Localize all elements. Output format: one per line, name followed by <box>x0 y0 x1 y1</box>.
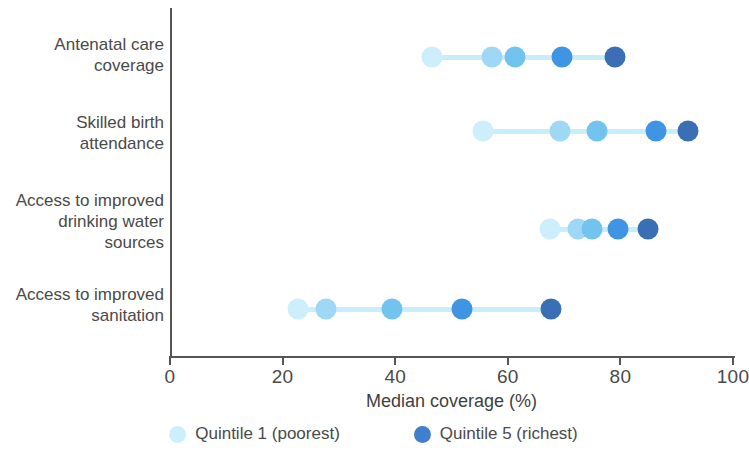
x-axis-tick <box>732 356 734 365</box>
x-axis-line <box>170 356 735 358</box>
data-point-dot <box>582 219 603 240</box>
category-label-antenatal-care-coverage: Antenatal care coverage <box>4 34 164 76</box>
data-point-dot <box>541 299 562 320</box>
category-label-access-to-improved-sanitation: Access to improved sanitation <box>4 284 164 326</box>
category-label-line: Access to improved <box>4 190 164 211</box>
x-axis-tick <box>169 356 171 365</box>
legend-label: Quintile 5 (richest) <box>440 424 578 444</box>
category-label-line: Antenatal care <box>4 34 164 55</box>
data-point-dot <box>551 47 572 68</box>
data-point-dot <box>604 47 625 68</box>
legend-item-quintile-1: Quintile 1 (poorest) <box>169 424 340 444</box>
x-axis-tick <box>282 356 284 365</box>
category-label-skilled-birth-attendance: Skilled birth attendance <box>4 112 164 154</box>
legend-swatch-icon <box>414 426 431 443</box>
data-point-dot <box>482 47 503 68</box>
data-point-dot <box>646 121 667 142</box>
category-label-line: drinking water <box>4 211 164 232</box>
data-point-dot <box>505 47 526 68</box>
x-axis-tick-label: 0 <box>165 366 176 388</box>
category-label-line: Skilled birth <box>4 112 164 133</box>
plot-area <box>170 8 733 356</box>
data-point-dot <box>287 299 308 320</box>
legend-swatch-icon <box>169 426 186 443</box>
chart-legend: Quintile 1 (poorest) Quintile 5 (richest… <box>0 424 747 444</box>
data-point-dot <box>637 219 658 240</box>
data-point-dot <box>381 299 402 320</box>
x-axis-tick <box>619 356 621 365</box>
data-point-dot <box>608 219 629 240</box>
data-point-dot <box>587 121 608 142</box>
x-axis-tick-label: 100 <box>717 366 749 388</box>
category-label-line: attendance <box>4 133 164 154</box>
category-label-line: sanitation <box>4 305 164 326</box>
x-axis-tick-label: 20 <box>272 366 294 388</box>
data-point-dot <box>452 299 473 320</box>
category-label-line: sources <box>4 232 164 253</box>
data-point-dot <box>550 121 571 142</box>
data-point-dot <box>677 121 698 142</box>
x-axis-tick-label: 80 <box>610 366 632 388</box>
data-point-dot <box>421 47 442 68</box>
x-axis-tick-label: 40 <box>384 366 406 388</box>
legend-item-quintile-5: Quintile 5 (richest) <box>414 424 578 444</box>
x-axis-title: Median coverage (%) <box>170 391 733 412</box>
x-axis-tick <box>507 356 509 365</box>
category-label-line: Access to improved <box>4 284 164 305</box>
data-point-dot <box>540 219 561 240</box>
legend-label: Quintile 1 (poorest) <box>195 424 340 444</box>
category-label-line: coverage <box>4 55 164 76</box>
category-label-access-to-improved-drinking-water-sources: Access to improved drinking water source… <box>4 190 164 253</box>
data-point-dot <box>473 121 494 142</box>
x-axis-tick-label: 60 <box>497 366 519 388</box>
data-point-dot <box>315 299 336 320</box>
x-axis-tick <box>394 356 396 365</box>
